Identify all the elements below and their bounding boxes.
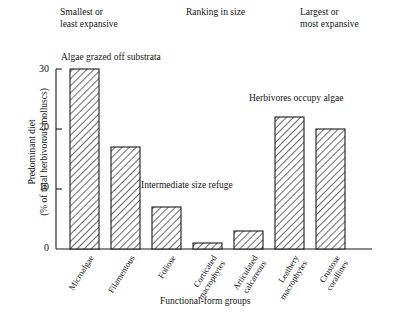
bar xyxy=(70,69,99,249)
bar xyxy=(193,243,222,249)
bar xyxy=(152,207,181,249)
bar xyxy=(111,147,140,249)
bar-series xyxy=(70,69,345,249)
bar xyxy=(316,129,345,249)
chart-figure: Smallest or least expansive Ranking in s… xyxy=(0,0,404,330)
bar xyxy=(234,231,263,249)
bar xyxy=(275,117,304,249)
